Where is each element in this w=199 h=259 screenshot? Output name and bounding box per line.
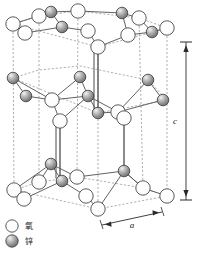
zinc-atom [56,21,68,33]
oxygen-atom [91,40,105,54]
zinc-atom [56,175,68,187]
oxygen-atom [121,28,135,42]
oxygen-atom [6,17,20,31]
zinc-atom [142,74,154,86]
zinc-atom [157,94,169,106]
zinc-atom [116,7,128,19]
zinc-atom [45,158,57,170]
oxygen-atom [71,4,85,18]
oxygen-atom [32,9,46,23]
oxygen-atom [45,93,59,107]
oxygen-atom [136,181,150,195]
oxygen-atom [81,24,95,38]
oxygen-atom [32,175,46,189]
zinc-atom [82,90,94,102]
zinc-atom [118,165,130,177]
zinc-atom [45,6,57,18]
oxygen-atom [17,192,31,206]
oxygen-atom [18,26,32,40]
legend-oxygen-icon [6,220,18,232]
a-axis-label: a [130,220,135,230]
zinc-atom [74,71,86,83]
oxygen-atom [160,189,174,203]
oxygen-atom [132,11,146,25]
zinc-atom [7,72,19,84]
zno-unit-cell-figure: c a 氧 锌 [0,0,199,259]
zinc-atom [146,26,158,38]
oxygen-atom [160,21,174,35]
oxygen-atom [53,114,67,128]
legend-zinc-icon [6,235,18,247]
zinc-atom [20,90,32,102]
oxygen-atom [70,170,84,184]
oxygen-atom [117,111,131,125]
c-axis-label: c [173,116,177,126]
oxygen-atom [79,189,93,203]
zinc-atom [92,107,104,119]
legend-zinc-label: 锌 [25,236,33,246]
oxygen-atom [91,202,105,216]
legend-oxygen-label: 氧 [25,221,33,231]
